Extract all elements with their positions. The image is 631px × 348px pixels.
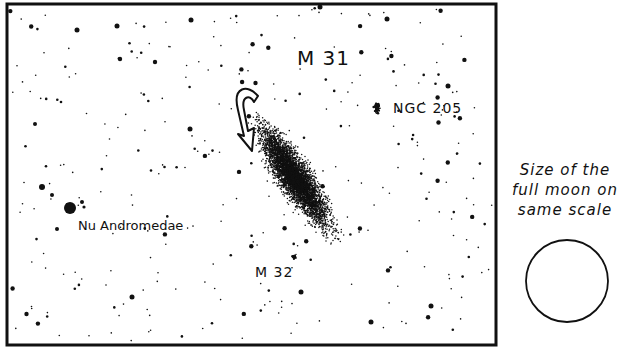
star bbox=[260, 283, 262, 285]
star bbox=[452, 328, 455, 331]
star bbox=[128, 42, 131, 45]
star bbox=[401, 321, 403, 323]
star bbox=[40, 98, 42, 100]
star bbox=[291, 303, 293, 305]
star bbox=[298, 93, 301, 96]
star bbox=[184, 167, 186, 169]
star bbox=[462, 58, 466, 62]
star bbox=[162, 98, 164, 100]
bright-star bbox=[188, 127, 193, 132]
star bbox=[411, 138, 414, 141]
star bbox=[474, 107, 476, 109]
bright-star bbox=[75, 28, 80, 33]
star bbox=[282, 226, 286, 230]
star bbox=[247, 114, 251, 118]
star bbox=[230, 254, 233, 257]
star bbox=[278, 312, 280, 314]
star bbox=[435, 179, 439, 183]
label-m31: M 31 bbox=[297, 46, 350, 70]
bright-star bbox=[130, 295, 135, 300]
label-m32: M 32 bbox=[255, 264, 293, 280]
star bbox=[142, 289, 144, 291]
star bbox=[267, 180, 269, 182]
star bbox=[268, 195, 270, 197]
star bbox=[164, 121, 166, 123]
star bbox=[367, 230, 369, 232]
moon-caption-line-3: same scale bbox=[500, 200, 630, 220]
star bbox=[185, 77, 187, 79]
star bbox=[193, 147, 196, 150]
star bbox=[325, 78, 328, 81]
star bbox=[417, 141, 419, 143]
star bbox=[80, 200, 84, 204]
star bbox=[163, 166, 166, 169]
star bbox=[146, 309, 148, 311]
star bbox=[31, 308, 33, 310]
star bbox=[86, 113, 88, 115]
bright-star bbox=[429, 304, 434, 309]
star bbox=[148, 331, 150, 333]
star bbox=[106, 155, 108, 157]
star bbox=[143, 25, 146, 28]
star bbox=[24, 145, 27, 148]
star bbox=[434, 82, 437, 85]
bright-star bbox=[385, 17, 390, 22]
star bbox=[449, 278, 451, 280]
star bbox=[204, 140, 206, 142]
star bbox=[237, 170, 241, 174]
star bbox=[10, 286, 14, 290]
moon-caption-line-1: Size of the bbox=[500, 160, 630, 180]
star bbox=[149, 43, 151, 45]
star bbox=[357, 105, 359, 107]
star bbox=[450, 288, 452, 290]
star bbox=[260, 34, 263, 37]
full-moon-scale-circle bbox=[526, 240, 608, 322]
bright-star bbox=[318, 5, 323, 10]
star bbox=[15, 328, 17, 330]
star bbox=[168, 46, 170, 48]
bright-star bbox=[55, 227, 59, 231]
star bbox=[230, 17, 232, 19]
star bbox=[157, 281, 159, 283]
star bbox=[274, 98, 276, 100]
star bbox=[45, 267, 47, 269]
star bbox=[292, 243, 295, 246]
star bbox=[382, 187, 384, 189]
star bbox=[63, 164, 65, 166]
bright-star bbox=[446, 84, 451, 89]
star bbox=[187, 227, 189, 229]
star bbox=[373, 204, 375, 206]
star bbox=[358, 226, 362, 230]
star bbox=[31, 261, 33, 263]
star bbox=[269, 301, 271, 303]
star bbox=[150, 257, 152, 259]
star bbox=[19, 211, 21, 213]
star bbox=[387, 58, 390, 61]
star bbox=[236, 22, 238, 24]
star bbox=[268, 289, 271, 292]
star bbox=[281, 301, 283, 303]
star bbox=[289, 130, 291, 132]
star bbox=[8, 9, 12, 13]
star bbox=[404, 64, 406, 66]
star bbox=[247, 70, 249, 72]
star bbox=[208, 154, 210, 156]
star bbox=[264, 304, 266, 306]
star bbox=[397, 167, 399, 169]
star bbox=[335, 166, 337, 168]
star bbox=[214, 21, 216, 23]
star bbox=[59, 335, 61, 337]
star bbox=[322, 170, 324, 172]
star bbox=[112, 233, 114, 235]
bright-star bbox=[118, 57, 122, 61]
star bbox=[298, 15, 300, 17]
star bbox=[297, 245, 299, 247]
star bbox=[43, 253, 45, 255]
star bbox=[448, 274, 450, 276]
star bbox=[72, 172, 74, 174]
star bbox=[426, 315, 430, 319]
star bbox=[385, 48, 387, 50]
star bbox=[483, 223, 486, 226]
star bbox=[368, 13, 370, 15]
star bbox=[333, 90, 336, 93]
